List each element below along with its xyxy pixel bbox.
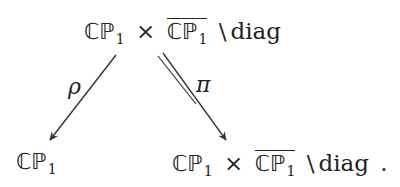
times-symbol: × xyxy=(136,18,155,44)
conjugate-cp: ℂℙ1 xyxy=(167,18,208,43)
cp-symbol: ℂℙ xyxy=(84,19,115,44)
top-node: ℂℙ1 × ℂℙ1 \diag xyxy=(84,18,281,43)
rho-label: ρ xyxy=(68,76,81,98)
pi-arrow xyxy=(158,53,226,140)
bottom-left-node: ℂℙ1 xyxy=(16,150,57,173)
period: . xyxy=(380,150,387,176)
bottom-right-node: ℂℙ1 × ℂℙ1 \diag . xyxy=(172,150,392,175)
times-symbol: × xyxy=(224,150,243,176)
setminus-symbol: \ xyxy=(307,150,315,176)
setminus-symbol: \ xyxy=(219,18,227,44)
conjugate-cp: ℂℙ1 xyxy=(255,150,296,175)
pi-label: π xyxy=(196,74,210,96)
cp-symbol: ℂℙ xyxy=(16,149,47,174)
diag-text: diag xyxy=(318,150,369,176)
rho-arrow xyxy=(50,55,116,140)
cp-symbol: ℂℙ xyxy=(172,151,203,176)
diag-text: diag xyxy=(230,18,281,44)
